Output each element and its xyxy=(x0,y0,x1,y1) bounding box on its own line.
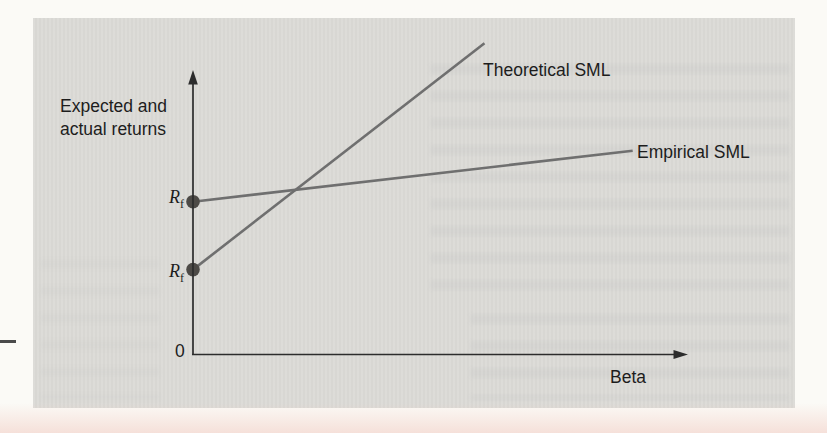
risk-free-label-upper: Rf xyxy=(146,187,184,208)
rf-symbol: R xyxy=(169,187,180,207)
sml-line-theoretical xyxy=(193,43,484,269)
empirical-sml-label: Empirical SML xyxy=(637,141,750,164)
y-axis-title: Expected and actual returns xyxy=(60,95,167,141)
origin-label: 0 xyxy=(175,340,185,363)
sml-line-empirical xyxy=(193,151,633,202)
rf-subscript: f xyxy=(180,271,184,285)
theoretical-sml-label: Theoretical SML xyxy=(483,59,610,82)
x-axis-arrowhead-icon xyxy=(674,350,689,359)
sml-chart xyxy=(0,0,827,433)
textbook-figure: Expected and actual returns Rf Rf 0 Theo… xyxy=(0,0,827,433)
y-axis-title-line2: actual returns xyxy=(60,118,167,141)
rf-symbol: R xyxy=(169,261,180,281)
y-axis-arrowhead-icon xyxy=(188,70,198,85)
x-axis-title: Beta xyxy=(610,366,646,389)
risk-free-label-lower: Rf xyxy=(146,261,184,282)
rf-subscript: f xyxy=(180,197,184,211)
y-axis-title-line1: Expected and xyxy=(60,95,167,118)
